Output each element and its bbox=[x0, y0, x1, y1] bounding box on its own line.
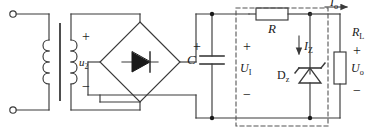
transformer-primary-coil bbox=[43, 40, 49, 84]
input-voltage-plus-sign: + bbox=[243, 40, 251, 54]
load-resistor-label: RL bbox=[352, 26, 364, 42]
secondary-voltage-label: u2 bbox=[79, 57, 88, 71]
junction-zener-bottom bbox=[308, 116, 312, 120]
capacitor-label: C bbox=[187, 53, 196, 66]
series-resistor-label: R bbox=[268, 22, 276, 35]
output-voltage-minus-sign: − bbox=[353, 84, 361, 98]
transformer-secondary-coil bbox=[71, 40, 77, 84]
output-voltage-label: Uo bbox=[351, 62, 364, 78]
junction-cap-top bbox=[210, 12, 214, 16]
ac-terminal-top-icon bbox=[10, 11, 16, 17]
series-resistor-body bbox=[256, 8, 288, 20]
secondary-plus-sign: + bbox=[82, 30, 90, 44]
junction-cap-bottom bbox=[210, 116, 214, 120]
ac-terminal-bottom-icon bbox=[10, 107, 16, 113]
schematic-canvas bbox=[0, 0, 374, 136]
zener-current-label: IZ bbox=[304, 40, 313, 56]
circuit-diagram: + − u2 + C R + UI − IZ Dz Io RL + Uo − bbox=[0, 0, 374, 136]
load-resistor-body bbox=[334, 52, 346, 84]
output-current-label: Io bbox=[330, 0, 338, 12]
bridge-diode-symbol bbox=[122, 52, 158, 72]
output-voltage-plus-sign: + bbox=[353, 44, 361, 58]
zener-label: Dz bbox=[277, 69, 289, 85]
input-voltage-label: UI bbox=[240, 62, 251, 78]
secondary-minus-sign: − bbox=[82, 80, 90, 94]
input-voltage-minus-sign: − bbox=[243, 88, 251, 102]
